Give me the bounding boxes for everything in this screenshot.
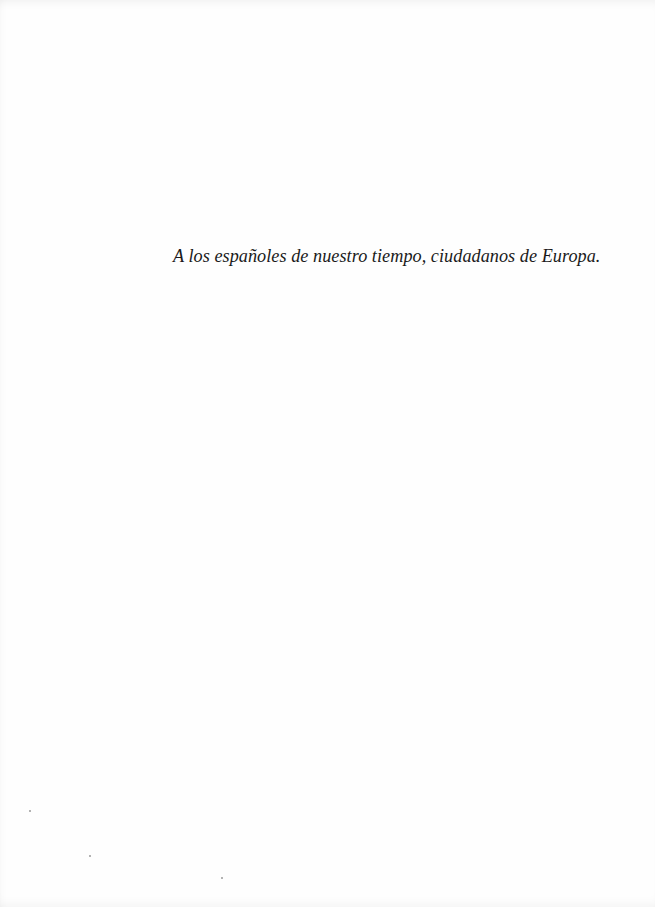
scan-speck	[89, 855, 91, 857]
scan-speck	[221, 877, 223, 879]
scan-speck	[29, 810, 31, 812]
dedication-text: A los españoles de nuestro tiempo, ciuda…	[173, 245, 600, 267]
book-page: A los españoles de nuestro tiempo, ciuda…	[0, 0, 655, 907]
